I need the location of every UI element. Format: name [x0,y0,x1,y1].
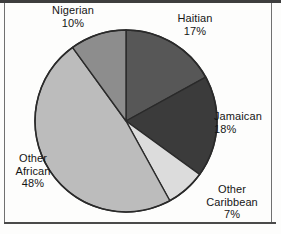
pie-slice-label-nigerian-name: Nigerian [30,4,116,17]
pie-slice-label-jamaican-value: 18% [214,123,280,136]
pie-slice-label-haitian: Haitian 17% [158,12,232,37]
pie-slice-label-other-caribbean-value: 7% [192,208,272,221]
pie-slice-label-other-african-name-line1: Other [2,152,64,165]
pie-slice-label-haitian-value: 17% [158,25,232,38]
figure-bottom-rule [4,222,276,224]
pie-slice-label-jamaican: Jamaican 18% [214,110,280,135]
pie-slice-label-haitian-name: Haitian [158,12,232,25]
pie-slice-label-nigerian-value: 10% [30,17,116,30]
pie-chart-figure: Nigerian 10% Haitian 17% Jamaican 18% Ot… [0,0,281,234]
figure-left-rule [4,3,5,224]
pie-slice-label-other-african-value: 48% [2,177,64,190]
pie-slice-label-other-african-name-line2: African [2,165,64,178]
pie-slice-label-jamaican-name: Jamaican [214,110,280,123]
pie-slice-label-other-caribbean-name-line2: Caribbean [192,196,272,209]
figure-top-rule [0,0,281,3]
pie-slice-label-other-caribbean: Other Caribbean 7% [192,183,272,221]
pie-slice-label-nigerian: Nigerian 10% [30,4,116,29]
pie-slice-label-other-african: Other African 48% [2,152,64,190]
pie-slice-label-other-caribbean-name-line1: Other [192,183,272,196]
